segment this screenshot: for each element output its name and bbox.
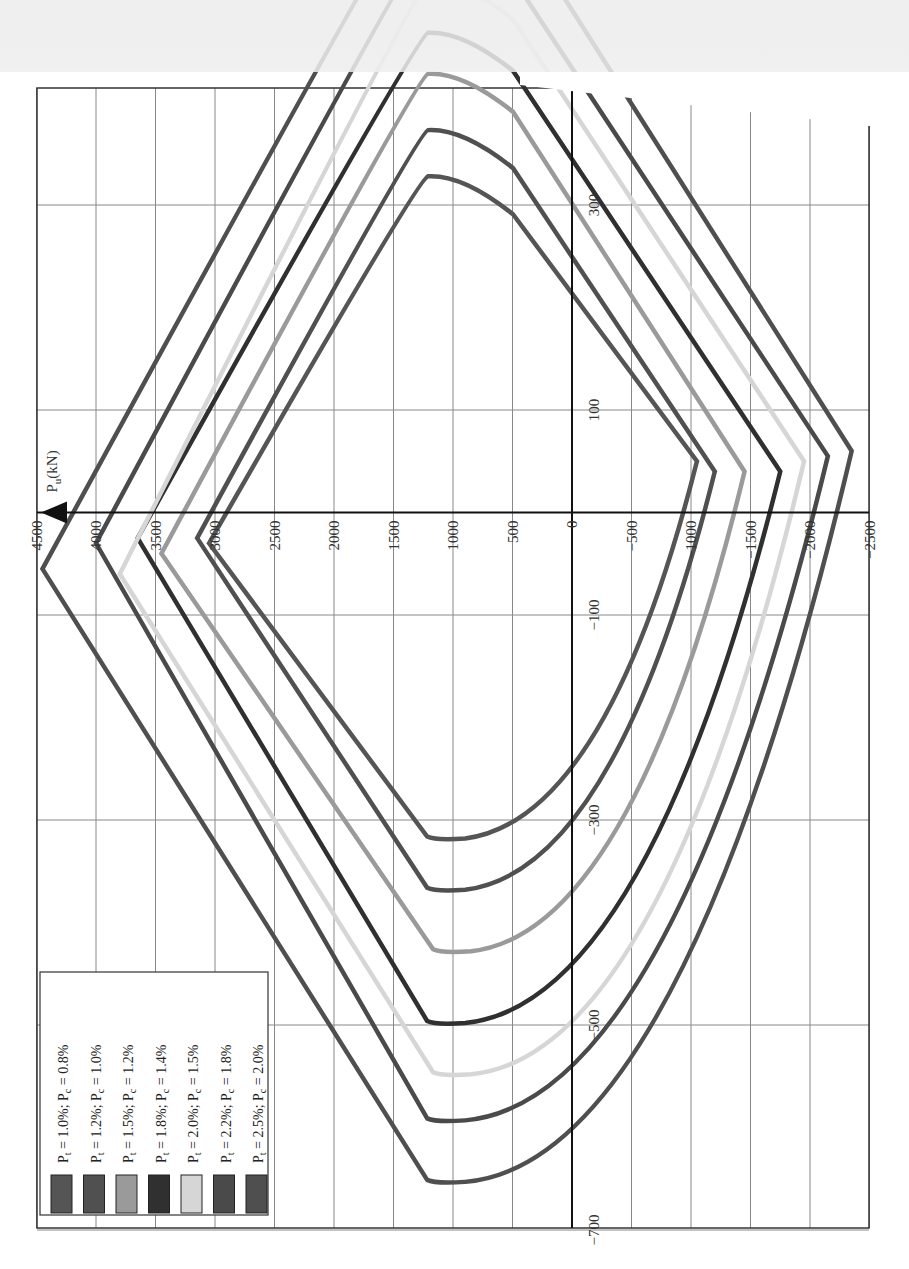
- pu-axis-label: Pu(kN): [44, 450, 63, 492]
- pu-tick-label: 4000: [88, 521, 104, 551]
- legend-label: Pt = 2.2%; Pc = 1.8%: [219, 1044, 236, 1163]
- legend-swatch: [214, 1175, 235, 1213]
- legend-swatch: [116, 1175, 137, 1213]
- m-tick-label: −500: [586, 1010, 602, 1041]
- pu-tick-label: 2000: [326, 521, 342, 551]
- legend-label: Pt = 1.2%; Pc = 1.0%: [89, 1044, 106, 1163]
- top-fade-overlay: [0, 0, 909, 72]
- pu-tick-label: 0: [564, 521, 580, 529]
- legend-swatch: [149, 1175, 170, 1213]
- legend-label: Pt = 2.0%; Pc = 1.5%: [186, 1044, 203, 1163]
- legend-label: Pt = 2.5%; Pc = 2.0%: [251, 1044, 268, 1163]
- m-tick-label: 300: [586, 194, 602, 217]
- m-tick-label: 100: [586, 399, 602, 422]
- pu-tick-label: 4500: [29, 521, 45, 551]
- arrow-icon: [41, 502, 67, 524]
- legend: Pt = 1.0%; Pc = 0.8%Pt = 1.2%; Pc = 1.0%…: [40, 972, 268, 1215]
- legend-label: Pt = 1.8%; Pc = 1.4%: [154, 1044, 171, 1163]
- interaction-diagram: Pu(kN) 450040003500300025002000150010005…: [0, 0, 909, 1269]
- legend-swatch: [51, 1175, 72, 1213]
- pu-tick-label: 3000: [207, 521, 223, 551]
- pu-tick-label: −1500: [743, 521, 759, 559]
- pu-tick-label: −2500: [862, 521, 878, 559]
- legend-label: Pt = 1.5%; Pc = 1.2%: [121, 1044, 138, 1163]
- m-tick-label: −100: [586, 600, 602, 631]
- pu-tick-label: 1500: [386, 521, 402, 551]
- pu-tick-label: −1000: [683, 521, 699, 559]
- m-tick-label: −700: [586, 1215, 602, 1246]
- pu-tick-label: −2000: [802, 521, 818, 559]
- legend-swatch: [181, 1175, 202, 1213]
- legend-swatch: [246, 1175, 267, 1213]
- pu-tick-label: −500: [624, 521, 640, 552]
- pu-tick-label: 500: [505, 521, 521, 544]
- pu-tick-label: 1000: [445, 521, 461, 551]
- legend-swatch: [84, 1175, 105, 1213]
- m-tick-label: −300: [586, 805, 602, 836]
- pu-tick-label: 2500: [267, 521, 283, 551]
- legend-label: Pt = 1.0%; Pc = 0.8%: [56, 1044, 73, 1163]
- pu-tick-label: 3500: [148, 521, 164, 551]
